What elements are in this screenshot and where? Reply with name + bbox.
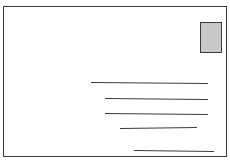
stamp-icon bbox=[200, 22, 222, 53]
